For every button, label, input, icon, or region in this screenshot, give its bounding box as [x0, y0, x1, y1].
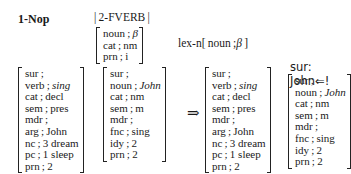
attr-value: sing [132, 125, 150, 137]
attr-name: sem [25, 102, 43, 114]
attr-value: decl [45, 90, 63, 102]
attr-name: mdr [110, 113, 128, 125]
input-verb-avm: sur ; verb ; singcat ; declsem ; presmdr… [18, 67, 84, 173]
attr-value: m [320, 109, 329, 121]
attr-value: 2 [317, 155, 323, 167]
attr-value: 3 dream [43, 137, 79, 149]
attr-value: 2 [132, 148, 138, 160]
attr-value: 1 sleep [43, 148, 74, 160]
attr-value: 2 [234, 160, 240, 172]
avm-row-prn: prn ; 2 [212, 161, 266, 173]
attr-name: prn [25, 160, 40, 172]
attr-name: noun [110, 79, 132, 91]
attr-value: decl [232, 90, 250, 102]
attr-name: sur [25, 67, 38, 79]
avm-row-prn: prn ; 2 [25, 161, 79, 173]
attr-value: 1 sleep [230, 148, 261, 160]
attr-name: mdr [25, 113, 43, 125]
attr-name: cat [212, 90, 225, 102]
attr-value: m [135, 102, 144, 114]
avm-row-prn: prn ; i [103, 51, 138, 63]
lexicon-lookup: lex-n[ noun ;β ] [178, 37, 248, 49]
rule-package-label: 2-FVERB [99, 11, 146, 23]
attr-name: nc [212, 137, 222, 149]
attr-name: cat [295, 97, 308, 109]
input-noun-avm: sur ; noun ; Johncat ; nmsem ; mmdr ; fn… [103, 67, 166, 162]
attr-value: 3 dream [230, 137, 266, 149]
attr-name: pc [25, 148, 35, 160]
lexicon-op: lex-n [178, 37, 202, 49]
attr-name: cat [103, 39, 116, 51]
attr-name: sur [212, 67, 225, 79]
transition-arrow: ⇒ [187, 104, 200, 122]
attr-name: sem [110, 102, 128, 114]
attr-value: nm [123, 39, 137, 51]
output-noun-avm: sur ; noun ; Johncat ; nmsem ; mmdr ; fn… [288, 74, 351, 169]
attr-name: sem [295, 109, 313, 121]
attr-name: sem [212, 102, 230, 114]
attr-name: sur [110, 67, 123, 79]
attr-name: arg [25, 125, 39, 137]
attr-value: sing [239, 79, 257, 91]
attr-name: cat [110, 90, 123, 102]
attr-value: 2 [47, 160, 53, 172]
avm-row-prn: prn ; 2 [295, 156, 346, 168]
attr-name: prn [110, 148, 125, 160]
attr-name: cat [25, 90, 38, 102]
attr-name: idy [295, 144, 309, 156]
pattern-noun-avm: noun ; βcat ; nmprn ; i [96, 27, 143, 64]
attr-value: pres [50, 102, 68, 114]
attr-name: noun [103, 27, 125, 39]
attr-value: nm [130, 90, 144, 102]
output-verb-avm: sur ; verb ; singcat ; declsem ; presmdr… [205, 67, 271, 173]
attr-name: prn [295, 155, 310, 167]
attr-name: arg [212, 125, 226, 137]
attr-name: nc [25, 137, 35, 149]
attr-name: prn [212, 160, 227, 172]
attr-value: pres [237, 102, 255, 114]
attr-value: John [46, 125, 67, 137]
rule-package: | 2-FVERB | [94, 11, 150, 23]
attr-name: verb [25, 79, 45, 91]
attr-name: mdr [295, 120, 313, 132]
attr-value: 2 [132, 137, 138, 149]
attr-value: John [139, 79, 160, 91]
attr-name: noun [295, 86, 317, 98]
rule-name: 1-Nop [18, 12, 49, 27]
attr-name: pc [212, 148, 222, 160]
attr-value: β [132, 27, 137, 39]
attr-value: John [324, 86, 345, 98]
attr-name: prn [103, 50, 118, 62]
attr-name: verb [212, 79, 232, 91]
attr-name: idy [110, 137, 124, 149]
attr-name: sur [295, 74, 308, 86]
attr-value: i [125, 50, 128, 62]
attr-value: sing [52, 79, 70, 91]
attr-name: fnc [110, 125, 124, 137]
attr-value: sing [317, 132, 335, 144]
attr-name: mdr [212, 113, 230, 125]
attr-name: fnc [295, 132, 309, 144]
attr-value: John [233, 125, 254, 137]
avm-row-prn: prn ; 2 [110, 149, 161, 161]
attr-value: 2 [317, 144, 323, 156]
attr-value: nm [315, 97, 329, 109]
